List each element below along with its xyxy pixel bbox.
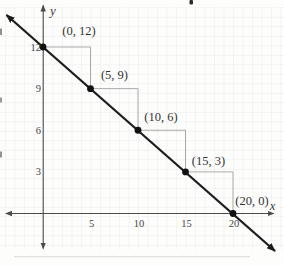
x-tick-label: 15 <box>181 218 192 229</box>
point-label: (15, 3) <box>192 154 225 168</box>
y-axis-label: y <box>48 3 56 18</box>
cropped-glyph-artifact <box>190 0 194 5</box>
y-tick-label: 3 <box>36 166 41 177</box>
y-tick-label: 6 <box>36 125 41 136</box>
data-point <box>230 210 237 217</box>
edge-smudge <box>0 152 2 158</box>
bottom-smudge-line <box>14 256 250 257</box>
point-label: (5, 9) <box>101 68 128 82</box>
x-axis-label: x <box>269 199 276 213</box>
edge-smudge <box>0 29 2 36</box>
graph-figure: (0, 12)(5, 9)(10, 6)(15, 3)(20, 0) 51015… <box>0 0 284 265</box>
point-label: (0, 12) <box>62 24 95 38</box>
x-tick-label: 5 <box>89 218 94 229</box>
x-tick-label: 20 <box>229 218 240 229</box>
edge-smudge <box>0 98 2 103</box>
y-tick-label: 12 <box>31 42 42 53</box>
data-point <box>182 168 189 175</box>
y-tick-label: 9 <box>36 83 41 94</box>
coordinate-plane: (0, 12)(5, 9)(10, 6)(15, 3)(20, 0) 51015… <box>0 0 284 265</box>
data-point <box>87 85 94 92</box>
x-tick-label: 10 <box>134 218 145 229</box>
point-label: (10, 6) <box>144 110 177 124</box>
data-point <box>135 127 142 134</box>
point-label: (20, 0) <box>235 194 268 208</box>
